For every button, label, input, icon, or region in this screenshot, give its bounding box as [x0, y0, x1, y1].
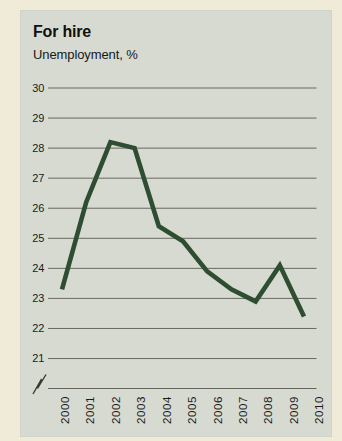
axis-break-icon — [33, 375, 46, 395]
y-axis-label: 24 — [32, 262, 44, 274]
x-axis-label: 2005 — [186, 396, 198, 424]
y-axis-label: 21 — [32, 352, 44, 364]
unemployment-line — [62, 142, 304, 316]
y-axis-label: 23 — [32, 292, 44, 304]
x-axis-label: 2002 — [110, 396, 122, 424]
x-axis-label: 2008 — [262, 396, 274, 424]
x-axis-label: 2000 — [59, 396, 71, 424]
x-axis-label: 2003 — [135, 396, 147, 424]
x-axis-label: 2004 — [161, 396, 173, 424]
x-axis-label: 2001 — [84, 396, 96, 424]
x-axis-label: 2009 — [288, 396, 300, 424]
x-axis-label: 2010 — [313, 396, 325, 424]
y-axis-label: 29 — [32, 112, 44, 124]
chart-svg: 3029282726252423222120002001200220032004… — [0, 0, 342, 441]
x-axis-label: 2006 — [212, 396, 224, 424]
y-axis-label: 27 — [32, 172, 44, 184]
y-axis-label: 30 — [32, 82, 44, 94]
x-axis-label: 2007 — [237, 396, 249, 424]
y-axis-label: 25 — [32, 232, 44, 244]
y-axis-label: 26 — [32, 202, 44, 214]
y-axis-label: 22 — [32, 322, 44, 334]
y-axis-label: 28 — [32, 142, 44, 154]
